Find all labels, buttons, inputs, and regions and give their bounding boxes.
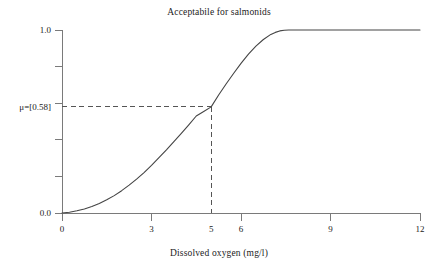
y-tick-label-0.0: 0.0 [40,208,51,218]
membership-curve [62,30,420,213]
axes-group [55,30,420,222]
x-tick-label-5: 5 [209,224,214,234]
x-tick-label-12: 12 [416,224,425,234]
x-tick-label-6: 6 [239,224,244,234]
mu-value-label: μ=[0.58] [19,102,51,112]
x-axis-label: Dissolved oxygen (mg/l) [0,248,438,258]
x-tick-label-9: 9 [328,224,333,234]
chart-figure: Acceptabile for salmonids 1.0 0.0 μ=[0.5… [0,0,438,273]
plot-area [0,0,438,273]
x-tick-label-0: 0 [60,224,65,234]
y-tick-label-1.0: 1.0 [40,25,51,35]
annotation-dashed-lines [62,107,211,213]
x-tick-label-3: 3 [149,224,154,234]
